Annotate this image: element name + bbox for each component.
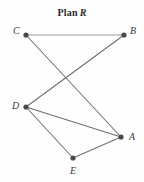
graph-node-d[interactable] <box>23 104 28 109</box>
graph-node-label-c: C <box>13 26 20 36</box>
graph-node-a[interactable] <box>118 134 123 139</box>
graph-node-label-b: B <box>130 26 136 36</box>
graph-node-label-a: A <box>129 132 135 142</box>
graph-node-b[interactable] <box>121 32 126 37</box>
graph-edges <box>26 35 124 158</box>
graph-edge-e-a <box>73 137 121 158</box>
plan-r-figure: PlanR CBDAE <box>0 0 144 182</box>
graph-node-label-d: D <box>12 101 19 111</box>
graph-canvas <box>0 0 144 182</box>
graph-node-e[interactable] <box>70 155 75 160</box>
graph-node-label-e: E <box>70 166 76 176</box>
graph-node-c[interactable] <box>23 32 28 37</box>
graph-edge-b-d <box>26 35 124 107</box>
